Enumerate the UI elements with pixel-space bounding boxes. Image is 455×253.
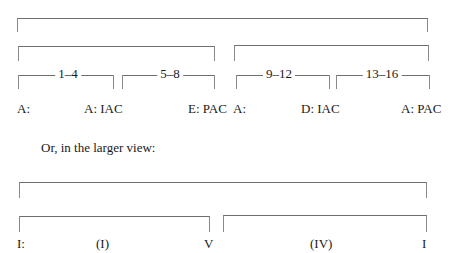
larger-level2-bracket-left — [19, 216, 210, 232]
segment-label: 13–16 — [363, 67, 402, 81]
segment-bracket-1-4: 1–4 — [18, 75, 114, 89]
harmony-label: D: IAC — [301, 102, 340, 116]
level1-bracket-whole — [17, 18, 428, 32]
roman-numeral-label: I — [422, 237, 426, 251]
segment-bracket-5-8: 5–8 — [122, 75, 215, 89]
harmony-label: A: PAC — [401, 102, 441, 116]
roman-numeral-label: (IV) — [310, 237, 332, 251]
caption-text: Or, in the larger view: — [41, 140, 155, 155]
roman-numeral-label: (I) — [96, 237, 109, 251]
level2-bracket-first-half — [18, 46, 215, 61]
harmony-label: E: PAC — [188, 102, 227, 116]
roman-numeral-label: I: — [17, 237, 25, 251]
segment-label: 1–4 — [55, 67, 81, 81]
harmony-label: A: — [233, 102, 246, 116]
segment-bracket-13-16: 13–16 — [336, 75, 430, 89]
segment-label: 5–8 — [157, 67, 183, 81]
segment-label: 9–12 — [263, 67, 295, 81]
level2-bracket-second-half — [234, 45, 429, 61]
harmony-label: A: IAC — [84, 102, 123, 116]
larger-level2-bracket-right — [223, 215, 427, 232]
harmony-label: A: — [17, 102, 30, 116]
larger-level1-bracket — [19, 182, 427, 198]
cut-off-text-line — [40, 0, 215, 3]
roman-numeral-label: V — [204, 237, 213, 251]
segment-bracket-9-12: 9–12 — [236, 75, 330, 89]
